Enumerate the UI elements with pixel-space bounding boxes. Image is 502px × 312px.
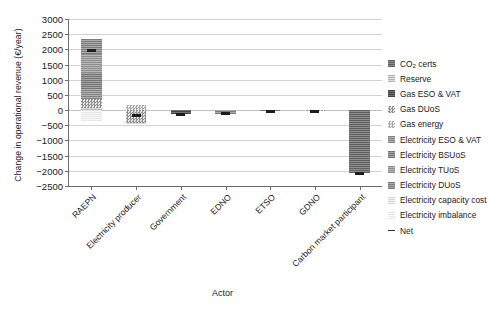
bar-stack[interactable] — [305, 19, 326, 186]
legend-item[interactable]: Electricity imbalance — [388, 208, 502, 223]
legend-item-label: Electricity BSUoS — [400, 150, 466, 160]
bar-segment-eletuos[interactable] — [81, 54, 102, 73]
y-tick-label: 3000 — [3, 14, 63, 25]
legend-swatch-icon — [388, 182, 395, 189]
bar-segment-gasduos[interactable] — [81, 99, 102, 108]
bar-stack[interactable] — [126, 19, 147, 186]
legend-item-label: Gas energy — [400, 119, 443, 129]
y-tick-mark — [65, 186, 69, 187]
legend-swatch-icon — [388, 212, 395, 219]
y-tick-label: −1500 — [3, 150, 63, 161]
legend-item[interactable]: Gas ESO & VAT — [388, 86, 502, 101]
legend-item[interactable]: Gas DUoS — [388, 102, 502, 117]
net-marker — [355, 172, 364, 175]
legend-item[interactable]: Net — [388, 223, 502, 238]
x-tick-mark — [270, 186, 271, 190]
legend-item[interactable]: Electricity DUoS — [388, 178, 502, 193]
legend-swatch-icon — [388, 197, 395, 204]
y-tick-label: −2000 — [3, 165, 63, 176]
net-marker — [87, 49, 96, 52]
chart-figure: Change in operational revenue (€/year) 3… — [0, 0, 502, 312]
y-tick-label: −2500 — [3, 181, 63, 192]
bar-segment-eleimb[interactable] — [81, 110, 102, 121]
x-tick-mark — [226, 186, 227, 190]
y-tick-mark — [65, 80, 69, 81]
legend-swatch-icon — [388, 166, 395, 173]
y-tick-mark — [65, 49, 69, 50]
y-tick-label: 500 — [3, 89, 63, 100]
bar-stack[interactable] — [260, 19, 281, 186]
y-tick-mark — [65, 19, 69, 20]
legend-item[interactable]: Gas energy — [388, 117, 502, 132]
y-tick-label: 1500 — [3, 59, 63, 70]
y-tick-mark — [65, 125, 69, 126]
x-tick-mark — [181, 186, 182, 190]
x-tick-mark — [136, 186, 137, 190]
y-tick-mark — [65, 110, 69, 111]
legend-item[interactable]: Electricity capacity cost — [388, 193, 502, 208]
legend-item-label: Electricity ESO & VAT — [400, 135, 481, 145]
legend-item[interactable]: Electricity BSUoS — [388, 147, 502, 162]
y-tick-label: −1000 — [3, 135, 63, 146]
legend-item[interactable]: Reserve — [388, 71, 502, 86]
legend-swatch-icon — [388, 60, 395, 67]
legend-item[interactable]: Electricity TUoS — [388, 162, 502, 177]
x-tick-mark — [315, 186, 316, 190]
x-tick-mark — [360, 186, 361, 190]
y-tick-label: 0 — [3, 105, 63, 116]
legend-item-label: Gas ESO & VAT — [400, 89, 461, 99]
net-marker — [221, 112, 230, 115]
legend-swatch-icon — [388, 90, 395, 97]
plot-inner: 300025002000150010005000−500−1000−1500−2… — [69, 19, 382, 186]
legend-dash-icon — [388, 230, 395, 231]
legend-swatch-icon — [388, 75, 395, 82]
legend-item-label: Gas DUoS — [400, 104, 440, 114]
legend-item-label: Electricity TUoS — [400, 165, 459, 175]
y-tick-label: 1000 — [3, 74, 63, 85]
bar-segment-elebsuos[interactable] — [81, 73, 102, 89]
bar-segment-gasenergy[interactable] — [126, 105, 147, 110]
bar-segment-elecap[interactable] — [126, 123, 147, 124]
y-tick-mark — [65, 171, 69, 172]
legend-swatch-icon — [388, 136, 395, 143]
bar-stack[interactable] — [171, 19, 192, 186]
legend-item-label: Electricity imbalance — [400, 210, 476, 220]
legend-swatch-icon — [388, 106, 395, 113]
bar-stack[interactable] — [81, 19, 102, 186]
y-tick-mark — [65, 140, 69, 141]
legend-item-label: Net — [400, 226, 413, 236]
net-marker — [266, 110, 275, 113]
y-tick-mark — [65, 95, 69, 96]
legend-item-label: Reserve — [400, 74, 431, 84]
plot-area: 300025002000150010005000−500−1000−1500−2… — [68, 19, 382, 187]
chart-legend: CO2 certsReserveGas ESO & VATGas DUoSGas… — [388, 56, 502, 238]
net-marker — [132, 114, 141, 117]
y-tick-label: 2500 — [3, 29, 63, 40]
legend-item-label: CO2 certs — [400, 59, 437, 69]
bar-segment-co2[interactable] — [349, 110, 370, 173]
x-axis-title: Actor — [60, 288, 385, 298]
legend-swatch-icon — [388, 121, 395, 128]
y-tick-mark — [65, 156, 69, 157]
bar-segment-elesovat[interactable] — [81, 89, 102, 99]
legend-item[interactable]: Electricity ESO & VAT — [388, 132, 502, 147]
y-tick-label: −500 — [3, 120, 63, 131]
y-tick-mark — [65, 65, 69, 66]
y-tick-mark — [65, 34, 69, 35]
x-tick-mark — [91, 186, 92, 190]
legend-swatch-icon — [388, 151, 395, 158]
y-tick-label: 2000 — [3, 44, 63, 55]
legend-item-label: Electricity capacity cost — [400, 195, 487, 205]
net-marker — [310, 110, 319, 113]
legend-item-label: Electricity DUoS — [400, 180, 461, 190]
legend-item[interactable]: CO2 certs — [388, 56, 502, 71]
bar-stack[interactable] — [215, 19, 236, 186]
net-marker — [176, 113, 185, 116]
bar-stack[interactable] — [349, 19, 370, 186]
